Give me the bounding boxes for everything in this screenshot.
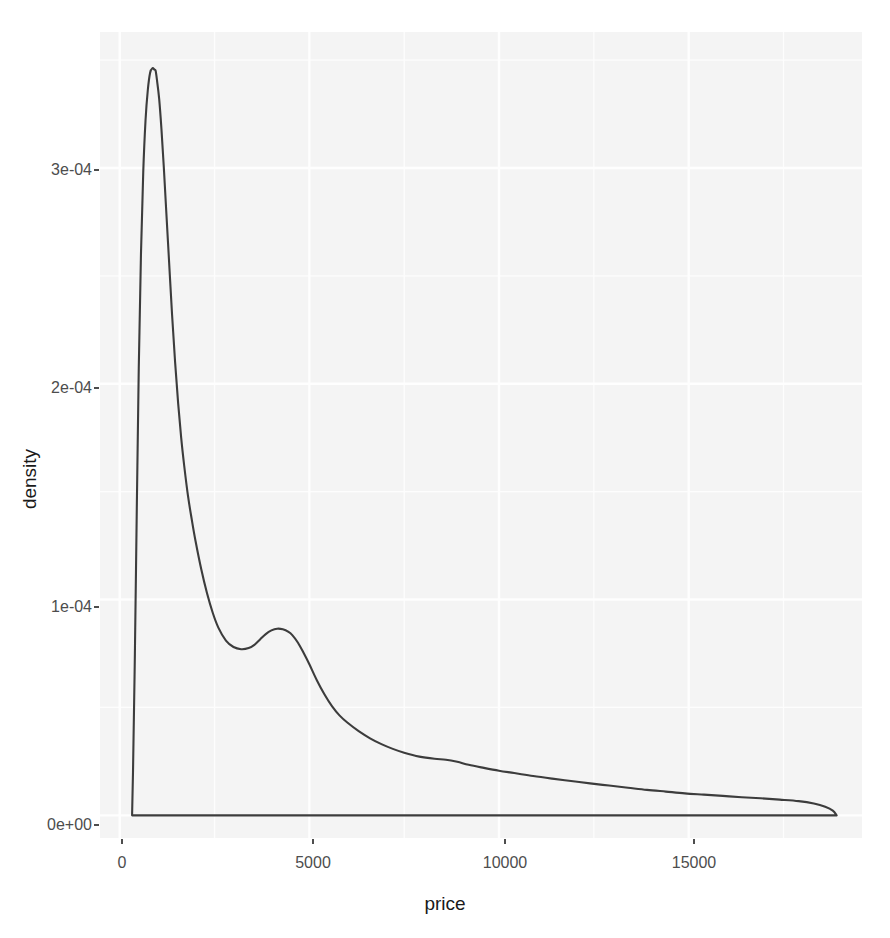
plot-canvas — [0, 0, 890, 938]
x-tick-mark-10000 — [504, 839, 506, 844]
y-axis-title: density — [19, 404, 41, 554]
x-tick-label-0: 0 — [77, 854, 167, 872]
y-tick-mark-2e-04 — [94, 387, 99, 389]
y-tick-label-2e-04: 2e-04 — [22, 379, 92, 397]
x-tick-label-10000: 10000 — [460, 854, 550, 872]
y-tick-label-3e-04: 3e-04 — [22, 161, 92, 179]
y-tick-mark-0e+00 — [94, 824, 99, 826]
x-tick-mark-15000 — [693, 839, 695, 844]
y-tick-label-0e+00: 0e+00 — [22, 816, 92, 834]
density-plot: 3e-04 2e-04 1e-04 0e+00 0 5000 10000 150… — [0, 0, 890, 938]
x-tick-mark-5000 — [312, 839, 314, 844]
x-tick-label-5000: 5000 — [268, 854, 358, 872]
y-tick-label-1e-04: 1e-04 — [22, 598, 92, 616]
y-tick-mark-3e-04 — [94, 169, 99, 171]
x-tick-mark-0 — [121, 839, 123, 844]
y-tick-mark-1e-04 — [94, 606, 99, 608]
x-tick-label-15000: 15000 — [649, 854, 739, 872]
x-axis-title: price — [0, 893, 890, 915]
